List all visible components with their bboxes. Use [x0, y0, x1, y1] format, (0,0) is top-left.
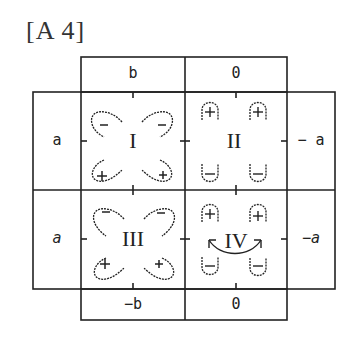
column-footer-0: 0 [185, 295, 287, 313]
column-header-0: 0 [185, 64, 287, 82]
column-header-b: b [81, 64, 185, 82]
row-label-a-top: a [33, 131, 81, 149]
quadrant-3-label: III [113, 226, 153, 252]
quadrant-4-label: IV [216, 228, 256, 254]
quadrant-1-label: I [113, 128, 153, 154]
row-label-a-bottom: a [33, 229, 81, 247]
row-label-neg-a-bottom: −a [287, 229, 335, 247]
diagram-grid [0, 0, 350, 342]
column-footer-neg-b: −b [81, 295, 185, 313]
quadrant-2-label: II [214, 128, 254, 154]
row-label-neg-a-top: − a [287, 131, 335, 149]
